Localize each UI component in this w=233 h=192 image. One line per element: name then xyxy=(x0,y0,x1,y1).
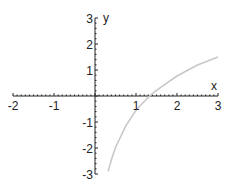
x-tick-label: 3 xyxy=(215,99,222,113)
data-curve xyxy=(108,57,218,171)
y-tick-label: 3 xyxy=(86,12,93,26)
y-tick-label: -1 xyxy=(82,116,93,130)
x-tick-label: 1 xyxy=(133,99,140,113)
y-tick-label: 2 xyxy=(86,38,93,52)
y-tick-label: -2 xyxy=(82,142,93,156)
x-tick-label: -1 xyxy=(49,99,60,113)
y-tick-label: -3 xyxy=(82,168,93,182)
plot-canvas: -2-1123321-1-2-3xy xyxy=(0,0,233,192)
y-tick-label: 1 xyxy=(86,64,93,78)
y-axis-label: y xyxy=(103,11,109,25)
x-tick-label: -2 xyxy=(8,99,19,113)
axes xyxy=(13,18,218,174)
x-axis-label: x xyxy=(211,79,217,93)
x-tick-label: 2 xyxy=(174,99,181,113)
